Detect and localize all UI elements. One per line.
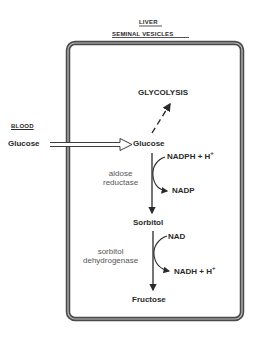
blood-glucose-label: Glucose (8, 140, 40, 148)
aldose-reductase-label: aldose reductase (103, 169, 138, 187)
nadph-label: NADPH + H+ (167, 153, 214, 161)
organ-label-seminal-vesicles: SEMINAL VESICLES (112, 31, 173, 37)
blood-label: BLOOD (11, 123, 34, 129)
glycolysis-label: GLYCOLYSIS (138, 89, 188, 97)
organ-label-liver: LIVER (139, 19, 158, 25)
glycolysis-arrow (152, 104, 170, 133)
cell-glucose-label: Glucose (133, 140, 165, 148)
nadp-label: NADP (172, 187, 195, 195)
sorbitol-label: Sorbitol (133, 219, 163, 227)
cell-membrane (68, 43, 242, 319)
transport-arrow (50, 139, 132, 151)
sorbitol-dehydrogenase-label: sorbitol dehydrogenase (83, 247, 138, 265)
nad-curve-arrow (154, 236, 169, 271)
nad-label: NAD (168, 233, 185, 241)
nadh-label: NADH + H+ (174, 268, 216, 276)
fructose-label: Fructose (132, 296, 166, 304)
nadph-curve-arrow (153, 157, 167, 191)
